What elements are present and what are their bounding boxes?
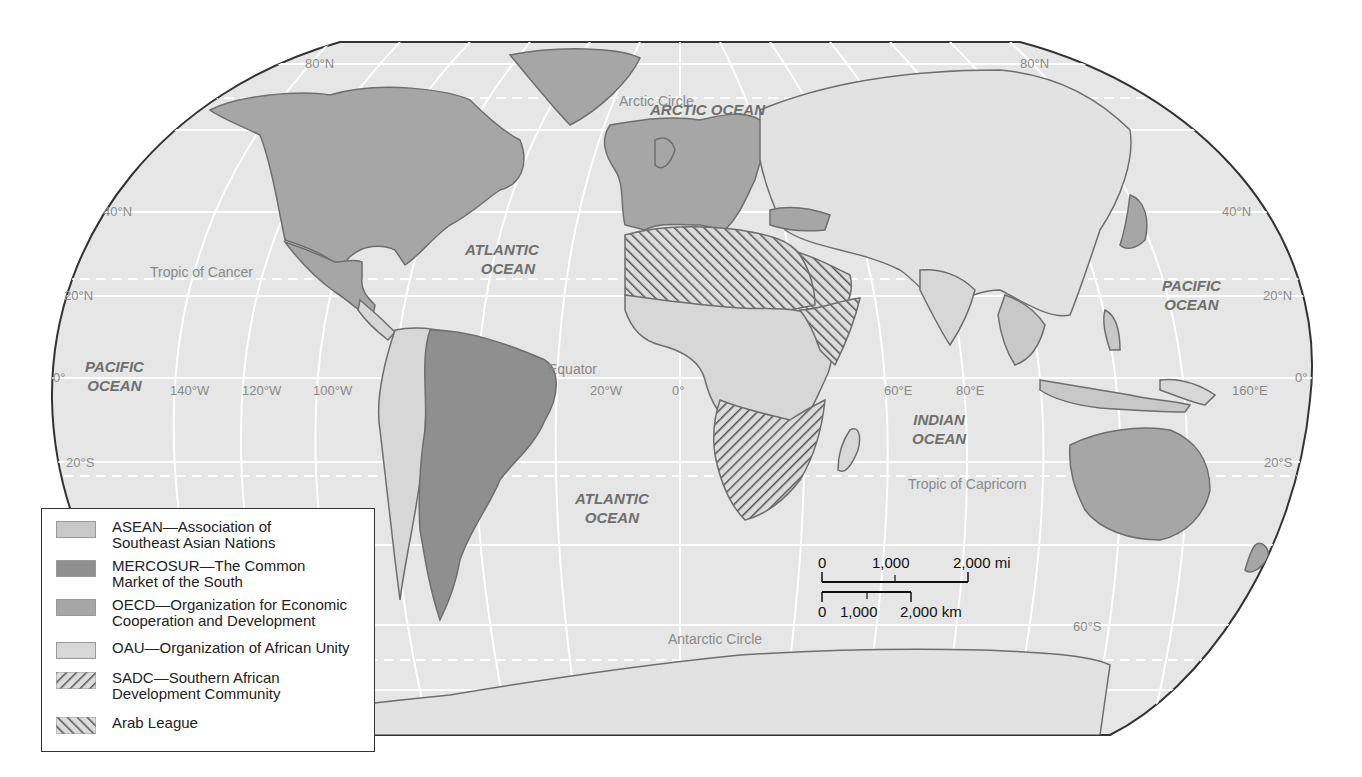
legend-item-oecd: OECD—Organization for Economic Cooperati… (56, 597, 347, 629)
lat-0-right: 0° (1295, 371, 1307, 384)
legend-label: Market of the South (112, 574, 305, 590)
legend-item-asean: ASEAN—Association of Southeast Asian Nat… (56, 519, 275, 551)
label-tropic-of-cancer: Tropic of Cancer (150, 265, 253, 279)
lat-80n-right: 80°N (1020, 57, 1049, 70)
lat-60s-right: 60°S (1073, 620, 1101, 633)
ocean-label-line1: INDIAN (912, 410, 966, 429)
ocean-label-line1: PACIFIC (1162, 276, 1221, 295)
legend-label: OAU—Organization of African Unity (112, 640, 350, 656)
label-antarctic-circle: Antarctic Circle (668, 632, 762, 646)
lon-160e: 160°E (1232, 384, 1268, 397)
lon-140w: 140°W (170, 384, 209, 397)
lon-120w: 120°W (242, 384, 281, 397)
ocean-label-line2: OCEAN (85, 376, 144, 395)
lat-80n-left: 80°N (305, 57, 334, 70)
scale-bar-lines (815, 570, 975, 605)
legend-label: Development Community (112, 686, 280, 702)
scale-km-2000: 2,000 km (900, 604, 962, 619)
scale-km-0: 0 (818, 604, 826, 619)
ocean-label-atlantic-south: ATLANTIC OCEAN (575, 489, 649, 527)
legend-item-mercosur: MERCOSUR—The Common Market of the South (56, 558, 305, 590)
scale-mi-0: 0 (818, 555, 826, 570)
label-equator: Equator (548, 362, 597, 376)
oau-swatch (56, 642, 96, 659)
asean-swatch (56, 521, 96, 538)
oecd-swatch (56, 599, 96, 616)
lat-20s-left: 20°S (66, 456, 94, 469)
ocean-label-line2: OCEAN (1162, 295, 1221, 314)
mercosur-swatch (56, 560, 96, 577)
arab-league-hatch-swatch (56, 717, 96, 734)
lat-20n-left: 20°N (64, 289, 93, 302)
ocean-label-line2: OCEAN (912, 429, 966, 448)
lon-100w: 100°W (313, 384, 352, 397)
ocean-label-line1: ATLANTIC (465, 240, 539, 259)
scale-km-1000: 1,000 (840, 604, 878, 619)
legend-label: Arab League (112, 715, 198, 731)
legend-label: Southeast Asian Nations (112, 535, 275, 551)
ocean-label-pacific-west: PACIFIC OCEAN (85, 357, 144, 395)
scale-mi-1000: 1,000 (872, 555, 910, 570)
lon-60e: 60°E (884, 384, 912, 397)
map-legend: ASEAN—Association of Southeast Asian Nat… (41, 508, 375, 752)
label-arctic-circle: Arctic Circle (619, 94, 694, 108)
legend-item-arab-league: Arab League (56, 715, 198, 734)
lon-0: 0° (672, 384, 684, 397)
legend-label: ASEAN—Association of (112, 519, 275, 535)
legend-item-oau: OAU—Organization of African Unity (56, 640, 350, 659)
lat-40n-right: 40°N (1222, 205, 1251, 218)
lat-20s-right: 20°S (1264, 456, 1292, 469)
legend-label: MERCOSUR—The Common (112, 558, 305, 574)
sadc-hatch-swatch (56, 672, 96, 689)
ocean-label-pacific-east: PACIFIC OCEAN (1162, 276, 1221, 314)
legend-label: SADC—Southern African (112, 670, 280, 686)
lat-0-left: 0° (53, 371, 65, 384)
lon-20w: 20°W (590, 384, 622, 397)
lat-40n-left: 40°N (103, 205, 132, 218)
ocean-label-indian: INDIAN OCEAN (912, 410, 966, 448)
ocean-label-line1: PACIFIC (85, 357, 144, 376)
ocean-label-atlantic-north: ATLANTIC OCEAN (465, 240, 539, 278)
lon-80e: 80°E (956, 384, 984, 397)
ocean-label-line1: ATLANTIC (575, 489, 649, 508)
label-tropic-of-capricorn: Tropic of Capricorn (908, 477, 1027, 491)
legend-label: OECD—Organization for Economic (112, 597, 347, 613)
legend-label: Cooperation and Development (112, 613, 347, 629)
legend-item-sadc: SADC—Southern African Development Commun… (56, 670, 280, 702)
lat-20n-right: 20°N (1263, 289, 1292, 302)
ocean-label-line2: OCEAN (465, 259, 539, 278)
scale-mi-2000: 2,000 mi (953, 555, 1011, 570)
ocean-label-line2: OCEAN (575, 508, 649, 527)
